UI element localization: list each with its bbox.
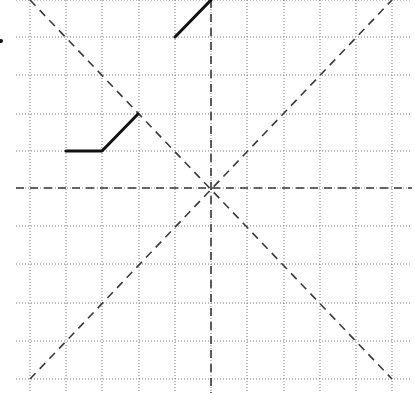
marker-dot [0,39,3,43]
symmetry-grid-diagram [0,0,415,393]
grid-horizontal-lines [16,0,412,379]
solid-top-segment [175,0,211,37]
symmetry-lines [16,0,412,393]
